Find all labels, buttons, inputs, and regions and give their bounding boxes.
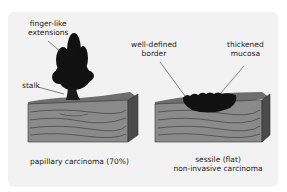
fingers-leader-line: [48, 41, 61, 52]
label-well-defined-border: well-defined border: [131, 40, 177, 58]
label-stalk: stalk: [22, 81, 40, 90]
papillary-tumor: [52, 33, 94, 100]
label-thickened-mucosa: thickened mucosa: [227, 40, 264, 58]
label-finger-like-extensions: finger-like extensions: [28, 19, 68, 37]
stalk-leader-line: [38, 87, 64, 94]
papillary-tissue-block: [28, 92, 138, 142]
caption-sessile-carcinoma: sessile (flat) non-invasive carcinoma: [163, 155, 273, 173]
mucosa-leader-line: [220, 66, 244, 94]
border-leader-line: [160, 62, 185, 96]
caption-papillary-carcinoma: papillary carcinoma (70%): [30, 157, 129, 166]
